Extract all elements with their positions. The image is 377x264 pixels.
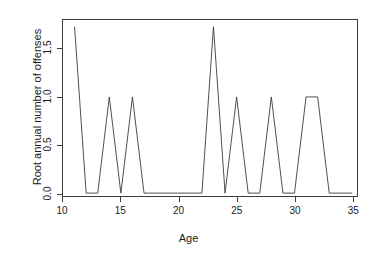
x-tick-label-2: 20 <box>173 205 184 216</box>
y-tick-1 <box>57 145 62 146</box>
x-tick-1 <box>120 197 121 202</box>
x-tick-label-4: 30 <box>290 205 301 216</box>
x-axis-title: Age <box>0 232 377 244</box>
x-tick-0 <box>62 197 63 202</box>
y-tick-label-1: 0.5 <box>42 137 53 152</box>
x-tick-3 <box>237 197 238 202</box>
y-axis-title: Root annual number of offenses <box>31 7 43 207</box>
data-series-line <box>63 20 357 196</box>
x-tick-4 <box>295 197 296 202</box>
x-tick-5 <box>353 197 354 202</box>
y-tick-3 <box>57 48 62 49</box>
y-tick-label-2: 1.0 <box>42 89 53 104</box>
y-tick-label-0: 0.0 <box>42 186 53 201</box>
x-tick-label-1: 15 <box>115 205 126 216</box>
y-tick-0 <box>57 194 62 195</box>
y-tick-2 <box>57 97 62 98</box>
x-tick-label-3: 25 <box>231 205 242 216</box>
x-tick-label-5: 35 <box>348 205 359 216</box>
x-tick-label-0: 10 <box>56 205 67 216</box>
plot-area <box>62 19 358 197</box>
chart-figure: 10 15 20 25 30 35 0.0 0.5 1.0 1.5 Age Ro… <box>0 0 377 264</box>
y-tick-label-3: 1.5 <box>42 40 53 55</box>
x-tick-2 <box>179 197 180 202</box>
